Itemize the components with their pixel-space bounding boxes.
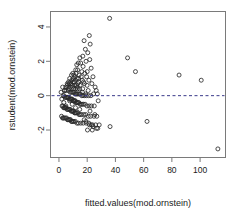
y-tick-label: 0	[37, 93, 47, 98]
y-tick-label: 2	[37, 59, 47, 64]
x-axis-title: fitted.values(mod.ornstein)	[85, 198, 191, 208]
x-tick-label: 40	[111, 165, 121, 175]
x-tick-label: 80	[167, 165, 177, 175]
x-tick-label: 100	[193, 165, 207, 175]
y-tick-label: 4	[37, 24, 47, 29]
plot-canvas: 020406080100 420-2 fitted.values(mod.orn…	[0, 0, 238, 220]
x-tick-label: 20	[82, 165, 92, 175]
x-tick-label: 60	[139, 165, 149, 175]
x-tick-label: 0	[57, 165, 62, 175]
y-tick-label: -2	[37, 126, 47, 134]
y-axis-title: rstudent(mod.ornstein)	[7, 40, 17, 131]
plot-background	[0, 0, 238, 220]
scatter-plot-figure: 020406080100 420-2 fitted.values(mod.orn…	[0, 0, 238, 220]
